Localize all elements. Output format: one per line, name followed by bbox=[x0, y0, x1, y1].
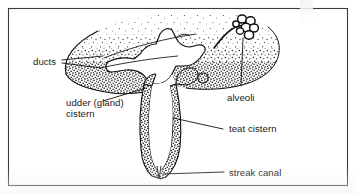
label-udder-cistern-line2: cistern bbox=[66, 108, 95, 119]
udder-diagram-figure: ducts udder (gland) cistern alveoli teat… bbox=[0, 0, 356, 194]
label-teat-cistern: teat cistern bbox=[229, 123, 277, 134]
diagram-canvas: ducts udder (gland) cistern alveoli teat… bbox=[0, 0, 356, 194]
label-alveoli: alveoli bbox=[227, 92, 255, 103]
label-ducts: ducts bbox=[33, 56, 56, 67]
label-udder-cistern-line1: udder (gland) bbox=[66, 97, 124, 108]
label-streak-canal: streak canal bbox=[229, 167, 281, 178]
